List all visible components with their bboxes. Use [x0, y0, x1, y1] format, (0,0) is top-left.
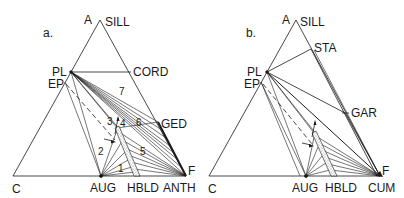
vertex-label-c-a: C	[12, 182, 21, 196]
dashed-ep-hbld-b	[263, 84, 312, 144]
field-number-5: 5	[140, 146, 146, 157]
vertex-label-sill-a: SILL	[105, 15, 130, 29]
mineral-label-gar-b: GAR	[351, 106, 377, 120]
field-number-7: 7	[119, 86, 125, 97]
field-number-3: 3	[107, 116, 113, 127]
field-number-1: 1	[118, 163, 124, 174]
panel-b-diagram	[209, 20, 383, 178]
panel-label-b: b.	[246, 26, 256, 40]
pl-point-a	[70, 71, 73, 74]
field-number-2: 2	[98, 146, 104, 157]
aug-point-b	[305, 175, 308, 178]
mineral-label-ep-b: EP	[244, 77, 260, 91]
mineral-label-ged-a: GED	[161, 117, 187, 131]
vertex-label-f-a: F	[188, 164, 195, 178]
vertex-label-sill-b: SILL	[300, 15, 325, 29]
vertex-label-b-apex: A	[282, 13, 290, 27]
mineral-label-sta-b: STA	[314, 41, 336, 55]
aug-point-a	[100, 175, 103, 178]
pl-point-b	[266, 71, 269, 74]
mineral-label-aug-a: AUG	[90, 181, 116, 195]
mineral-label-aug-b: AUG	[292, 181, 318, 195]
tie-lines-pl-fan-b	[261, 72, 380, 176]
dashed-ep-hbld-a	[66, 84, 115, 140]
vertex-label-a-apex: A	[84, 13, 92, 27]
mineral-label-hbld-a: HBLD	[127, 181, 159, 195]
arrowhead-left-b	[309, 144, 314, 148]
acf-phase-diagrams: a. A SILL C F PL EP CORD GED AUG HBLD AN…	[0, 0, 404, 198]
hbld-field-b	[312, 131, 337, 176]
mineral-label-cum-b: CUM	[368, 181, 395, 195]
mineral-label-cord-a: CORD	[133, 65, 169, 79]
arrowhead-up-b	[314, 120, 317, 125]
field-number-4: 4	[120, 118, 126, 129]
mineral-label-ep-a: EP	[48, 77, 64, 91]
mineral-label-anth-a: ANTH	[163, 181, 196, 195]
vertex-label-c-b: C	[208, 182, 217, 196]
mineral-label-hbld-b: HBLD	[325, 181, 357, 195]
vertex-label-f-b: F	[382, 164, 389, 178]
panel-label-a: a.	[43, 26, 53, 40]
field-number-6: 6	[136, 117, 142, 128]
